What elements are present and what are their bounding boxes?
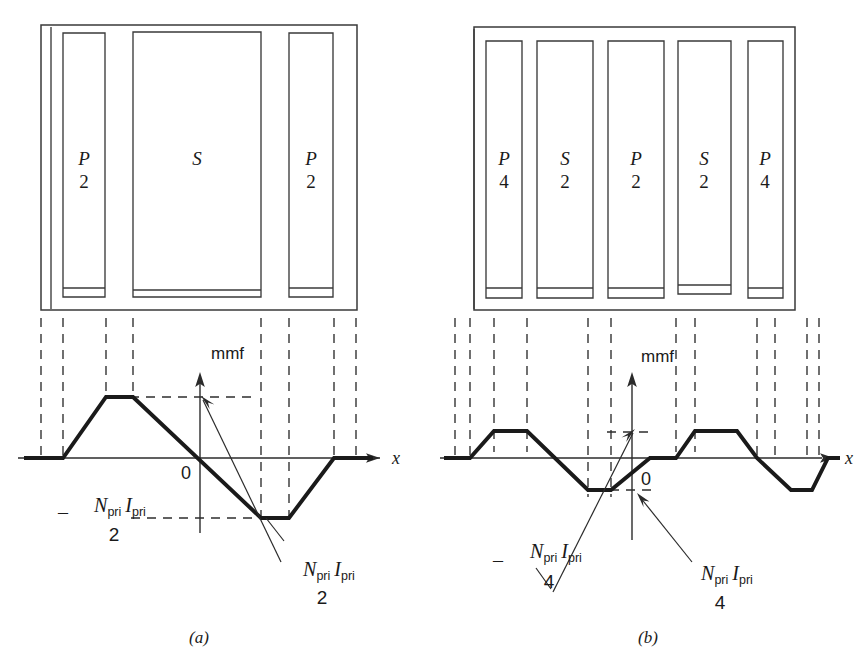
negative-level-numerator-b: NpriIpri [529, 540, 582, 565]
panel-caption-b: (b) [638, 628, 658, 647]
winding-label-b-4-symbol: S [699, 148, 709, 169]
negative-level-I-sub-a: pri [132, 505, 146, 519]
negative-level-label-a: – NpriIpri 2 [57, 494, 146, 545]
winding-layer-b-1 [486, 41, 522, 298]
winding-label-a-1-denominator: 2 [79, 171, 89, 192]
positive-level-numerator-a: NpriIpri [302, 558, 355, 583]
negative-level-label-b: – NpriIpri 4 [492, 540, 582, 592]
winding-label-b-1-denominator: 4 [499, 171, 509, 192]
positive-level-denominator-b: 4 [715, 592, 726, 613]
positive-level-I-sub-a: pri [341, 569, 355, 583]
negative-level-I-sub-b: pri [568, 551, 582, 565]
panel-b-mmf-plot: x mmf 0 – NpriIpri 4 [440, 347, 853, 613]
leader-arrowhead-b-positive [637, 493, 649, 507]
leader-arrowhead-a-positive [201, 396, 214, 409]
x-axis-label-a: x [391, 448, 400, 468]
winding-layer-b-3 [608, 41, 664, 298]
winding-layer-b-5 [748, 41, 783, 298]
panel-a-projection-lines [41, 318, 356, 516]
y-axis-label-b: mmf [641, 347, 674, 366]
winding-label-a-3-symbol: P [304, 148, 317, 169]
negative-level-denominator-a: 2 [109, 524, 120, 545]
negative-level-sign-a: – [57, 501, 69, 523]
winding-label-b-5-symbol: P [758, 148, 771, 169]
winding-label-b-5-denominator: 4 [760, 171, 770, 192]
positive-level-denominator-a: 2 [317, 587, 328, 608]
winding-label-a-2-symbol: S [192, 148, 202, 169]
leader-line-b-negative [553, 433, 633, 592]
y-axis-label-a: mmf [211, 344, 244, 363]
winding-label-b-1-symbol: P [497, 148, 510, 169]
figure-root: P 2 S P 2 x mmf [0, 0, 857, 658]
positive-level-label-b: NpriIpri 4 [700, 562, 753, 613]
winding-label-b-4-denominator: 2 [699, 171, 709, 192]
positive-level-I-sub-b: pri [739, 573, 753, 587]
negative-level-denominator-b: 4 [544, 571, 555, 592]
positive-level-numerator-b: NpriIpri [700, 562, 753, 587]
origin-label-b: 0 [641, 469, 651, 489]
winding-label-b-3-denominator: 2 [631, 171, 641, 192]
panel-a-mmf-plot: x mmf 0 – NpriIpri 2 [18, 344, 400, 608]
negative-level-N-sub-a: pri [107, 505, 121, 519]
panel-a-winding-section: P 2 S P 2 [41, 25, 357, 310]
winding-label-b-2-symbol: S [560, 148, 570, 169]
negative-level-N-sub-b: pri [543, 551, 557, 565]
x-axis-label-b: x [844, 448, 853, 468]
positive-level-N-sub-b: pri [714, 573, 728, 587]
leader-line-b-positive [640, 497, 692, 562]
winding-label-a-3-denominator: 2 [306, 171, 316, 192]
panel-a: P 2 S P 2 x mmf [18, 25, 400, 647]
negative-level-numerator-a: NpriIpri [93, 494, 146, 519]
panel-caption-a: (a) [189, 628, 209, 647]
panel-b-winding-section: P 4 S 2 P 2 S 2 P 4 [474, 27, 795, 310]
origin-label-a: 0 [181, 463, 191, 483]
leader-line-a-positive [203, 400, 281, 562]
winding-layer-b-2 [537, 41, 593, 298]
negative-level-sign-b: – [492, 549, 504, 571]
positive-level-N-sub-a: pri [316, 569, 330, 583]
panel-b: P 4 S 2 P 2 S 2 P 4 [440, 27, 853, 647]
leader-arrowhead-b-negative [622, 429, 636, 442]
winding-label-a-1-symbol: P [77, 148, 90, 169]
winding-label-b-3-symbol: P [629, 148, 642, 169]
positive-level-label-a: NpriIpri 2 [302, 558, 355, 608]
figure-svg: P 2 S P 2 x mmf [0, 0, 857, 658]
winding-label-b-2-denominator: 2 [560, 171, 570, 192]
